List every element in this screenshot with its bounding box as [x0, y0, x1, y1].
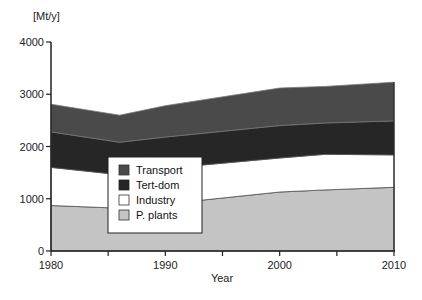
y-axis-unit-label: [Mt/y]	[33, 10, 60, 22]
legend-label-transport: Transport	[136, 164, 183, 176]
y-tick-label: 3000	[20, 88, 44, 100]
legend-label-industry: Industry	[136, 194, 176, 206]
legend-swatch-p-plants	[119, 210, 129, 220]
x-tick-label: 1990	[153, 259, 177, 271]
legend-item-industry: Industry	[119, 194, 176, 206]
x-ticks: 1980199020002010	[39, 251, 406, 271]
x-axis-title: Year	[211, 272, 234, 284]
y-tick-label: 1000	[20, 193, 44, 205]
legend: Transport Tert-dom Industry P. plants	[108, 157, 202, 233]
legend-swatch-industry	[119, 195, 129, 205]
y-ticks: 01000200030004000	[20, 36, 51, 257]
stacked-area-chart: 01000200030004000 1980199020002010 [Mt/y…	[0, 0, 422, 300]
plot-areas	[51, 82, 394, 251]
legend-item-transport: Transport	[119, 164, 183, 176]
legend-label-p-plants: P. plants	[136, 209, 178, 221]
y-tick-label: 2000	[20, 141, 44, 153]
y-tick-label: 0	[38, 245, 44, 257]
x-tick-label: 2010	[382, 259, 406, 271]
x-tick-label: 2000	[267, 259, 291, 271]
legend-swatch-tert-dom	[119, 180, 129, 190]
x-tick-label: 1980	[39, 259, 63, 271]
y-tick-label: 4000	[20, 36, 44, 48]
legend-label-tert-dom: Tert-dom	[136, 179, 179, 191]
legend-item-p-plants: P. plants	[119, 209, 178, 221]
legend-item-tert-dom: Tert-dom	[119, 179, 179, 191]
legend-swatch-transport	[119, 165, 129, 175]
